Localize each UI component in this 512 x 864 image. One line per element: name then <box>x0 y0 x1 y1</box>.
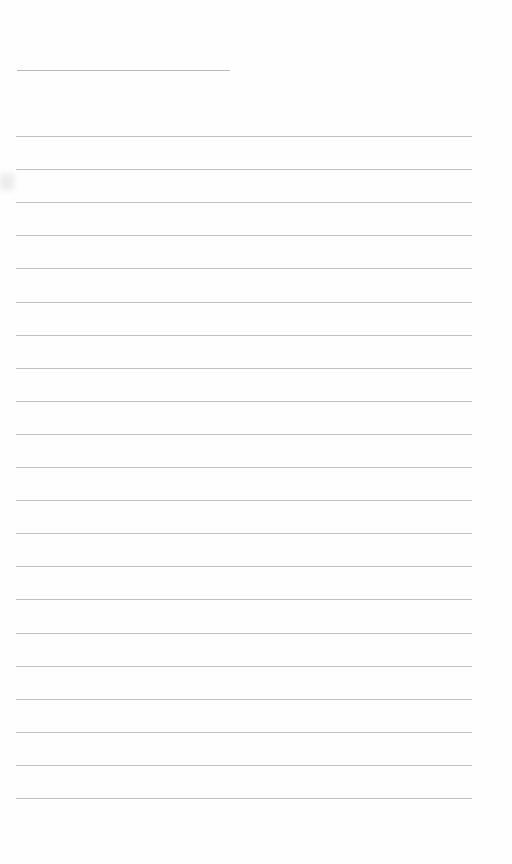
ruled-line <box>16 699 472 700</box>
ruled-line <box>16 599 472 600</box>
ruled-line <box>16 169 472 170</box>
ruled-line <box>16 136 472 137</box>
ruled-line <box>16 202 472 203</box>
ruled-line <box>16 235 472 236</box>
ruled-line <box>16 666 472 667</box>
ruled-line <box>16 732 472 733</box>
ruled-line <box>16 335 472 336</box>
ruled-line <box>16 633 472 634</box>
ruled-line <box>16 467 472 468</box>
ruled-line <box>16 765 472 766</box>
ruled-line <box>16 798 472 799</box>
ruled-line <box>16 533 472 534</box>
ruled-line <box>16 500 472 501</box>
ruled-line <box>16 401 472 402</box>
ruled-line <box>16 368 472 369</box>
ruled-page <box>0 0 512 864</box>
ruled-line <box>16 302 472 303</box>
ruled-line <box>16 566 472 567</box>
bleed-through-text <box>0 176 512 186</box>
ruled-line <box>16 268 472 269</box>
title-line <box>17 70 230 71</box>
ruled-line <box>16 434 472 435</box>
